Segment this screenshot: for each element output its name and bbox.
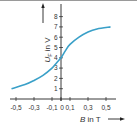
x-tick-label: 0,5	[101, 104, 110, 111]
svg-text:UF in V: UF in V	[43, 37, 53, 63]
y-tick-label: 5	[54, 44, 58, 51]
x-tick-label: -0,3	[28, 104, 40, 111]
y-label-unit: in V	[43, 37, 52, 54]
y-axis-label: UF in V	[43, 37, 53, 63]
y-tick-label: 1	[54, 85, 58, 92]
x-tick-label: 0,3	[83, 104, 92, 111]
y-arrow-icon	[41, 3, 44, 23]
y-ticks: 12345678	[54, 13, 63, 92]
y-tick-label: 6	[54, 34, 58, 41]
x-tick-label: 0	[60, 104, 64, 111]
chart: -0,5-0,3-0,10,10,30,50 12345678 UF in V …	[0, 0, 137, 132]
x-axis-label: B in T	[80, 115, 101, 124]
y-tick-label: 2	[54, 75, 58, 82]
x-arrow-icon	[108, 117, 125, 120]
x-tick-label: 0,1	[65, 104, 74, 111]
y-tick-label: 7	[54, 23, 58, 30]
x-tick-label: -0,5	[10, 104, 22, 111]
y-tick-label: 4	[54, 54, 58, 61]
x-tick-label: -0,1	[46, 104, 58, 111]
y-tick-label: 8	[54, 13, 58, 20]
